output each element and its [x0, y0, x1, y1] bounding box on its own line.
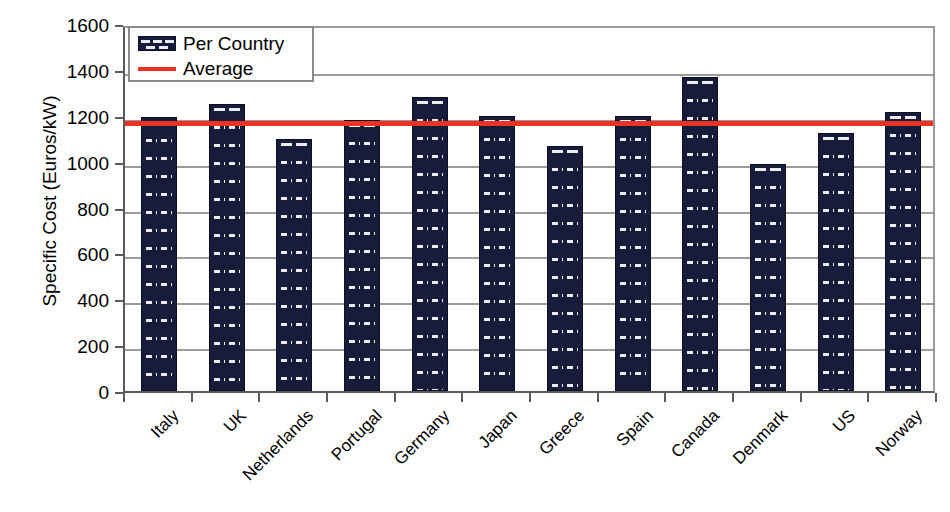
x-tick-mark	[461, 393, 463, 402]
bar-denmark	[750, 164, 786, 391]
bar-hatch-offset	[142, 127, 176, 390]
y-tick-label-1400: 1400	[39, 61, 109, 83]
legend-label-average: Average	[183, 59, 253, 78]
bar-portugal	[344, 120, 380, 391]
y-tick-label-1600: 1600	[39, 15, 109, 37]
bar-pattern-swatch-icon	[138, 36, 176, 51]
bar-hatch-offset	[683, 87, 717, 390]
x-tick-label-us: US	[828, 406, 859, 437]
y-tick-mark	[115, 392, 123, 394]
x-tick-mark	[664, 393, 666, 402]
gridline-1000	[125, 166, 933, 168]
x-tick-label-italy: Italy	[147, 406, 183, 442]
bar-us	[818, 133, 854, 391]
y-tick-mark	[115, 71, 123, 73]
bar-netherlands	[276, 139, 312, 391]
gridline-200	[125, 349, 933, 351]
x-tick-label-spain: Spain	[612, 406, 657, 451]
x-tick-mark	[732, 393, 734, 402]
y-tick-mark	[115, 254, 123, 256]
bar-hatch-offset	[751, 174, 785, 390]
x-tick-mark	[867, 393, 869, 402]
x-tick-label-canada: Canada	[668, 406, 724, 462]
legend-entry-average: Average	[138, 56, 312, 81]
y-tick-label-400: 400	[39, 290, 109, 312]
x-tick-label-denmark: Denmark	[729, 406, 792, 469]
bar-hatch-offset	[480, 126, 514, 390]
y-tick-label-200: 200	[39, 336, 109, 358]
bar-greece	[547, 146, 583, 391]
x-tick-label-portugal: Portugal	[327, 406, 386, 465]
average-line-swatch-icon	[138, 67, 176, 71]
gridline-400	[125, 303, 933, 305]
y-tick-label-600: 600	[39, 244, 109, 266]
legend-entry-per-country: Per Country	[138, 31, 312, 56]
y-tick-label-1200: 1200	[39, 107, 109, 129]
bar-hatch-offset	[548, 156, 582, 390]
average-line	[125, 121, 933, 126]
y-tick-mark	[115, 25, 123, 27]
x-tick-label-uk: UK	[219, 406, 250, 437]
x-tick-mark	[394, 393, 396, 402]
x-tick-label-japan: Japan	[475, 406, 522, 453]
bar-hatch-offset	[616, 126, 650, 390]
x-tick-label-norway: Norway	[872, 406, 927, 461]
bar-chart: Specific Cost (Euros/kW) 160014001200100…	[0, 0, 950, 512]
bar-hatch-offset	[345, 130, 379, 390]
bar-hatch-offset	[819, 143, 853, 390]
y-tick-label-0: 0	[39, 382, 109, 404]
bar-japan	[479, 116, 515, 391]
bar-spain	[615, 116, 651, 391]
y-tick-label-1000: 1000	[39, 153, 109, 175]
bar-hatch-offset	[886, 122, 920, 390]
bar-norway	[885, 112, 921, 391]
y-tick-mark	[115, 117, 123, 119]
y-tick-mark	[115, 300, 123, 302]
gridline-800	[125, 212, 933, 214]
x-tick-mark	[597, 393, 599, 402]
y-tick-mark	[115, 346, 123, 348]
x-tick-mark	[529, 393, 531, 402]
x-tick-mark	[935, 393, 937, 402]
x-tick-mark	[123, 393, 125, 402]
y-tick-label-800: 800	[39, 199, 109, 221]
x-tick-mark	[800, 393, 802, 402]
bar-hatch-offset	[210, 114, 244, 390]
bar-hatch-offset	[413, 107, 447, 390]
y-tick-mark	[115, 163, 123, 165]
legend-label-per-country: Per Country	[183, 34, 284, 53]
bar-uk	[209, 104, 245, 391]
x-tick-label-greece: Greece	[535, 406, 589, 460]
x-tick-mark	[326, 393, 328, 402]
bar-hatch-offset	[277, 149, 311, 390]
y-tick-mark	[115, 209, 123, 211]
x-tick-label-netherlands: Netherlands	[239, 406, 318, 485]
x-tick-label-germany: Germany	[390, 406, 454, 470]
gridline-600	[125, 257, 933, 259]
bar-italy	[141, 117, 177, 391]
x-tick-mark	[191, 393, 193, 402]
bar-germany	[412, 97, 448, 391]
x-tick-mark	[258, 393, 260, 402]
legend: Per Country Average	[128, 26, 314, 82]
